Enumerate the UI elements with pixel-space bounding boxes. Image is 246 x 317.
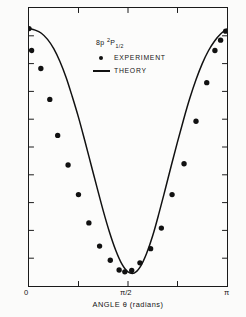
legend-title-level: 8p — [96, 39, 105, 46]
data-point — [159, 225, 164, 230]
data-point — [218, 37, 223, 42]
data-point — [108, 258, 113, 263]
data-point — [137, 260, 142, 265]
data-point — [97, 243, 102, 248]
data-point — [223, 28, 227, 33]
legend-entry-theory: THEORY — [88, 66, 184, 76]
data-point — [212, 48, 217, 53]
data-point — [169, 192, 174, 197]
data-point — [65, 162, 70, 167]
legend-title: 8p 2P1/2 — [96, 37, 184, 49]
x-tick-label-pi-over-2: π/2 — [120, 288, 132, 297]
data-point — [86, 220, 91, 225]
data-point — [47, 97, 52, 102]
x-axis-title: ANGLE θ (radians) — [28, 300, 228, 309]
figure-container: PHOTOELECTRON SIGNAL (arbitrary units) A… — [0, 0, 246, 317]
data-point — [38, 66, 43, 71]
data-point — [193, 119, 198, 124]
filled-circle-marker-icon — [88, 56, 114, 60]
x-tick-label-pi: π — [224, 288, 229, 297]
data-point — [129, 268, 134, 273]
data-point — [148, 246, 153, 251]
data-point — [204, 80, 209, 85]
data-point — [76, 192, 81, 197]
legend-entry-experiment: EXPERIMENT — [88, 53, 184, 63]
legend-label-theory: THEORY — [114, 67, 147, 74]
legend-label-experiment: EXPERIMENT — [114, 54, 166, 61]
data-point — [55, 133, 60, 138]
legend-title-j: 1/2 — [115, 43, 123, 49]
data-point — [181, 161, 186, 166]
data-point — [122, 269, 127, 274]
solid-line-marker-icon — [88, 70, 114, 72]
data-point — [29, 26, 32, 31]
x-tick-label-0: 0 — [24, 288, 28, 297]
legend: 8p 2P1/2 EXPERIMENT THEORY — [88, 37, 184, 79]
data-point — [116, 267, 121, 272]
data-point — [29, 48, 34, 53]
